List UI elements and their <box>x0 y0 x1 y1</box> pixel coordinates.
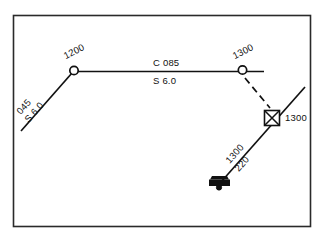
navigation-plot-canvas <box>0 0 327 242</box>
own-speed-leg2-label: S 6.0 <box>153 76 176 86</box>
cpa-time-label: 1300 <box>285 113 307 123</box>
waypoint-1300-icon <box>238 66 246 74</box>
own-course-leg2-label: C 085 <box>153 58 179 68</box>
diagram-page: 045 S 6.0 1200 C 085 S 6.0 1300 1300 130… <box>0 0 327 242</box>
cpa-marker-icon <box>265 111 280 126</box>
waypoint-1200-icon <box>70 66 78 74</box>
